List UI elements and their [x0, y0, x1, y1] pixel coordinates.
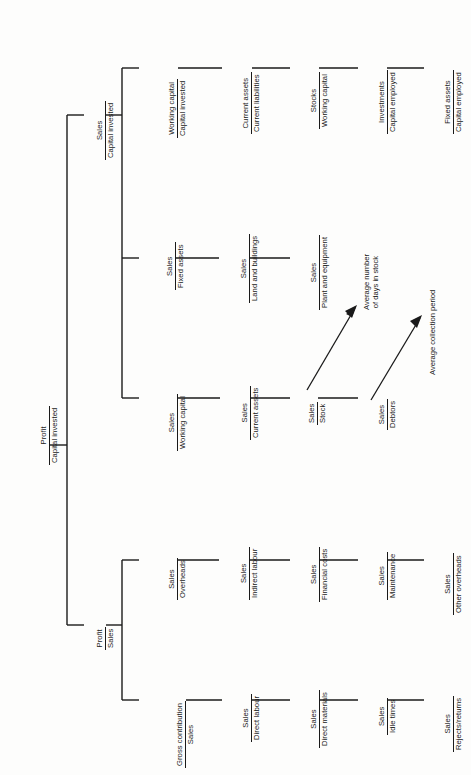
node-denominator: Fixed assets [175, 242, 185, 290]
node-denominator: Other overheads [453, 553, 463, 615]
node-sales-direct-materials: Sales Direct materials [310, 690, 330, 748]
node-sales-overheads: Sales Overheads [168, 558, 188, 600]
node-denominator: Working capital [177, 394, 187, 451]
node-numerator: Sales [96, 101, 105, 160]
node-gross-contribution-sales: Gross contribution Sales [176, 701, 196, 768]
node-numerator: Sales [310, 690, 319, 748]
node-numerator: Sales [168, 558, 177, 600]
node-denominator: Rejects/returns [453, 696, 463, 752]
node-numerator: Sales [240, 547, 249, 600]
node-denominator: Capital employed [387, 70, 397, 134]
node-numerator: Sales [241, 386, 250, 440]
node-root: Profit Capital invested [40, 406, 60, 465]
annotation-line-2: of days in stock [371, 256, 380, 308]
node-sales-maintenance: Sales Maintenance [378, 552, 398, 600]
node-sales-working-capital: Sales Working capital [168, 394, 188, 451]
node-numerator: Gross contribution [176, 701, 185, 768]
node-denominator: Idle times [387, 698, 397, 735]
node-root-numerator: Profit [40, 406, 49, 465]
node-sales-current-assets: Sales Current assets [241, 386, 261, 440]
node-denominator: Maintenance [387, 552, 397, 600]
node-investments-capital-employed: Investments Capital employed [378, 70, 398, 134]
node-denominator: Stock [317, 402, 327, 425]
node-denominator: Debtors [387, 399, 397, 430]
node-sales-indirect-labour: Sales Indirect labour [240, 547, 260, 600]
annotation-collection-period: Average collection period [428, 290, 437, 375]
node-sales-stock: Sales Stock [308, 402, 328, 425]
node-sales-debtors: Sales Debtors [378, 399, 398, 430]
node-numerator: Stocks [310, 72, 319, 129]
node-denominator: Sales [185, 701, 195, 768]
node-root-denominator: Capital invested [49, 406, 59, 465]
ratio-tree-diagram: Profit Capital invested Sales Capital in… [0, 0, 471, 775]
node-numerator: Sales [444, 696, 453, 752]
node-denominator: Working capital [319, 72, 329, 129]
node-numerator: Sales [378, 698, 387, 735]
annotation-line-1: Average number [362, 254, 371, 310]
node-numerator: Sales [378, 552, 387, 600]
node-sales-plant-and-equipment: Sales Plant and equipment [310, 235, 330, 310]
arrow-collection-period [371, 315, 422, 400]
node-sales-financial-costs: Sales Financial costs [310, 547, 330, 602]
arrow-days-in-stock [307, 305, 357, 390]
node-sales-capital-invested: Sales Capital invested [96, 101, 116, 160]
node-numerator: Sales [310, 547, 319, 602]
node-numerator: Sales [308, 402, 317, 425]
node-numerator: Profit [96, 627, 105, 650]
node-denominator: Direct labour [251, 694, 261, 742]
node-numerator: Sales [242, 694, 251, 742]
node-fixed-assets-capital-employed: Fixed assets Capital employed [444, 70, 464, 134]
connector-lines [0, 0, 471, 775]
node-numerator: Working capital [168, 79, 177, 138]
node-working-capital-capital-invested: Working capital Capital invested [168, 79, 188, 138]
node-numerator: Sales [378, 399, 387, 430]
node-numerator: Sales [444, 553, 453, 615]
node-denominator: Current assets [250, 386, 260, 440]
node-denominator: Direct materials [319, 690, 329, 748]
node-stocks-working-capital: Stocks Working capital [310, 72, 330, 129]
node-denominator: Capital invested [105, 101, 115, 160]
node-denominator: Capital invested [177, 79, 187, 138]
node-numerator: Sales [168, 394, 177, 451]
node-denominator: Sales [105, 627, 115, 650]
node-sales-direct-labour: Sales Direct labour [242, 694, 262, 742]
annotation-days-in-stock: Average number of days in stock [362, 254, 381, 310]
node-denominator: Indirect labour [249, 547, 259, 600]
node-sales-rejects-returns: Sales Rejects/returns [444, 696, 464, 752]
node-numerator: Current assets [242, 72, 251, 134]
node-denominator: Land and buildings [249, 234, 259, 303]
node-current-assets-current-liabilities: Current assets Current liabilities [242, 72, 262, 134]
node-denominator: Capital employed [453, 70, 463, 134]
node-numerator: Sales [166, 242, 175, 290]
node-sales-other-overheads: Sales Other overheads [444, 553, 464, 615]
node-denominator: Financial costs [319, 547, 329, 602]
node-sales-land-and-buildings: Sales Land and buildings [240, 234, 260, 303]
node-denominator: Current liabilities [251, 72, 261, 134]
node-numerator: Sales [240, 234, 249, 303]
node-sales-idle-times: Sales Idle times [378, 698, 398, 735]
node-numerator: Fixed assets [444, 70, 453, 134]
node-denominator: Overheads [177, 558, 187, 600]
node-numerator: Investments [378, 70, 387, 134]
node-numerator: Sales [310, 235, 319, 310]
annotation-line-1: Average collection period [428, 290, 437, 375]
node-denominator: Plant and equipment [319, 235, 329, 310]
node-profit-sales: Profit Sales [96, 627, 116, 650]
node-sales-fixed-assets: Sales Fixed assets [166, 242, 186, 290]
